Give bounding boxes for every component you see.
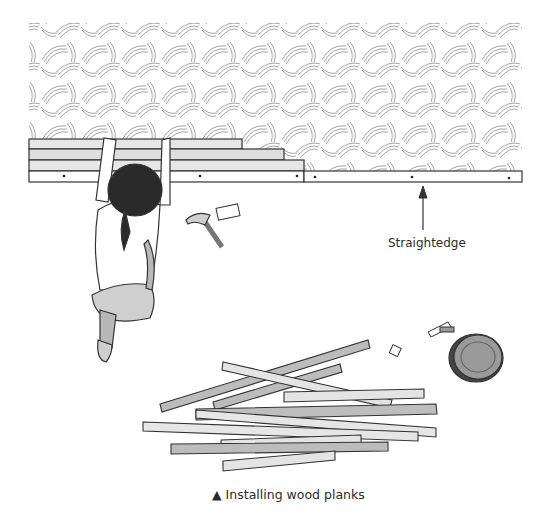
straightedge-label: Straightedge	[388, 236, 466, 250]
figure-caption: ▲ Installing wood planks	[212, 487, 365, 502]
hammer-icon	[186, 213, 222, 247]
illustration	[0, 0, 547, 519]
paint-can	[449, 334, 503, 382]
caption-text: Installing wood planks	[226, 487, 365, 502]
straightedge-arrow	[419, 186, 427, 230]
loose-planks	[143, 340, 437, 471]
tape-square	[389, 345, 401, 357]
caption-triangle-icon: ▲	[212, 487, 222, 502]
putty-knife	[428, 322, 454, 337]
nail-box	[216, 204, 240, 220]
